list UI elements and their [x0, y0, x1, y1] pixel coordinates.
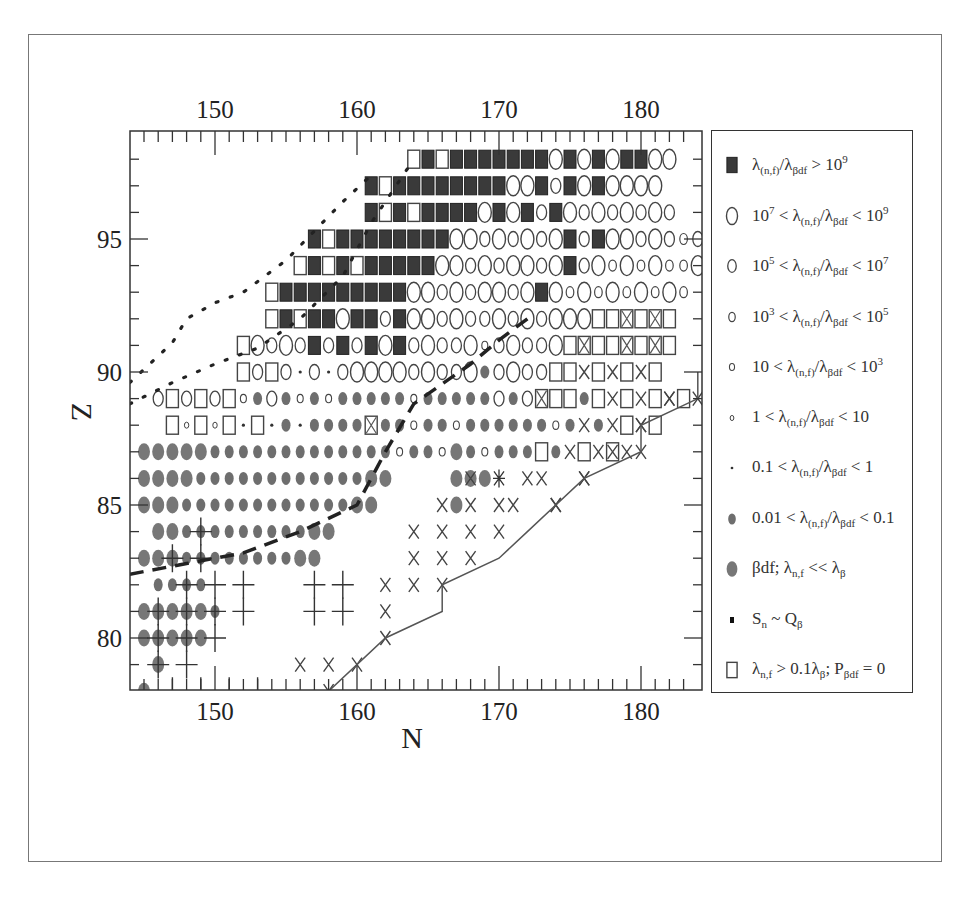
circle-small-icon — [712, 302, 752, 332]
data-points — [138, 149, 733, 705]
legend-label: 1 < λ(n,f)/λβdf < 10 — [752, 407, 869, 428]
y-tick-label: 90 — [97, 359, 122, 386]
legend-item: 105 < λ(n,f)/λβdf < 107 — [712, 246, 912, 286]
circle-medium-icon — [712, 251, 752, 281]
x-tick-label-bottom: 160 — [338, 698, 376, 725]
legend-label: Sn ~ Qβ — [752, 609, 803, 630]
y-tick-label: 95 — [97, 226, 122, 253]
legend-label: 0.01 < λ(n,f)/λβdf < 0.1 — [752, 508, 894, 529]
open-square-icon — [712, 655, 752, 685]
x-axis-title: N — [401, 721, 423, 754]
x-tick-label-bottom: 170 — [480, 698, 518, 725]
legend-label: 105 < λ(n,f)/λβdf < 107 — [752, 254, 888, 277]
legend-label: βdf; λn,f << λβ — [752, 558, 845, 579]
legend-item: λn,f > 0.1λβ; Pβdf = 0 — [712, 650, 912, 690]
legend-item: 103 < λ(n,f)/λβdf < 105 — [712, 297, 912, 337]
x-tick-label-top: 160 — [338, 96, 376, 123]
x-tick-label-top: 170 — [480, 96, 518, 123]
black-small-square-icon — [712, 605, 752, 635]
legend-label: λ(n,f)/λβdf > 109 — [752, 153, 848, 176]
legend-label: λn,f > 0.1λβ; Pβdf = 0 — [752, 659, 885, 680]
gray-dot-icon — [712, 504, 752, 534]
legend-label: 10 < λ(n,f)/λβdf < 103 — [752, 355, 883, 378]
x-tick-label-bottom: 180 — [622, 698, 660, 725]
legend-item: 0.1 < λ(n,f)/λβdf < 1 — [712, 448, 912, 488]
legend-label: 0.1 < λ(n,f)/λβdf < 1 — [752, 457, 873, 478]
legend-item: λ(n,f)/λβdf > 109 — [712, 145, 912, 185]
filled-square-icon — [712, 150, 752, 180]
legend-item: 10 < λ(n,f)/λβdf < 103 — [712, 347, 912, 387]
legend-item: βdf; λn,f << λβ — [712, 549, 912, 589]
x-tick-label-top: 150 — [196, 96, 234, 123]
legend-label: 107 < λ(n,f)/λβdf < 109 — [752, 204, 888, 227]
y-tick-label: 80 — [97, 625, 122, 652]
circle-tiny-icon — [712, 352, 752, 382]
dotted-boundary-line — [130, 175, 371, 382]
dot-icon — [712, 453, 752, 483]
legend-item: 107 < λ(n,f)/λβdf < 109 — [712, 196, 912, 236]
legend-item: 1 < λ(n,f)/λβdf < 10 — [712, 398, 912, 438]
circle-mini-icon — [712, 403, 752, 433]
circle-large-icon — [712, 201, 752, 231]
y-tick-label: 85 — [97, 492, 122, 519]
legend: λ(n,f)/λβdf > 109107 < λ(n,f)/λβdf < 109… — [711, 130, 913, 693]
x-tick-label-top: 180 — [622, 96, 660, 123]
y-axis-title: Z — [66, 403, 99, 421]
gray-ellipse-icon — [712, 554, 752, 584]
x-tick-label-bottom: 150 — [196, 698, 234, 725]
legend-item: Sn ~ Qβ — [712, 600, 912, 640]
legend-item: 0.01 < λ(n,f)/λβdf < 0.1 — [712, 499, 912, 539]
legend-label: 103 < λ(n,f)/λβdf < 105 — [752, 305, 888, 328]
